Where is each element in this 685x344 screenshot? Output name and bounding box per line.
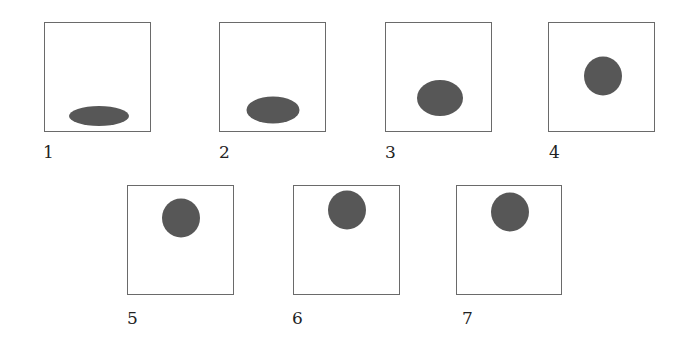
panel-3-label: 3 (385, 143, 396, 161)
panel-2-label: 2 (219, 143, 230, 161)
panel-4-label: 4 (549, 143, 560, 161)
panel-1-blob (69, 106, 129, 126)
panel-3-frame (385, 22, 492, 132)
panel-4-blob (584, 57, 622, 96)
panel-6-frame (293, 185, 400, 295)
panel-1-frame (44, 22, 151, 132)
panel-2-frame (219, 22, 326, 132)
panel-7-frame (456, 185, 562, 295)
panel-3-blob (417, 80, 463, 116)
panel-5-blob (162, 199, 200, 238)
panel-7-label: 7 (462, 309, 473, 327)
panel-5-label: 5 (127, 309, 138, 327)
panel-2-blob (247, 97, 300, 124)
panel-7-blob (491, 193, 529, 232)
panel-4-frame (548, 22, 655, 132)
panel-5-frame (127, 185, 234, 295)
panel-1-label: 1 (43, 143, 54, 161)
panel-6-blob (328, 191, 366, 230)
panel-6-label: 6 (292, 309, 303, 327)
